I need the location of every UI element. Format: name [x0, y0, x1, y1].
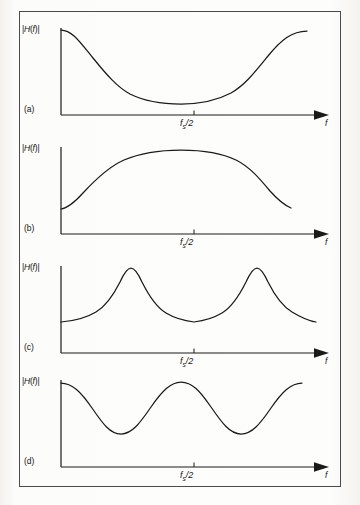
panel-c-nyquist-label: fs/2 — [180, 357, 193, 368]
panel-d: |H(f)| (d) fs/2 f — [20, 368, 342, 487]
panel-b-letter: (b) — [24, 224, 34, 233]
panel-b: |H(f)| (b) fs/2 f — [20, 135, 342, 254]
panel-d-y-axis-label: |H(f)| — [22, 377, 39, 386]
panel-b-x-axis-label: f — [325, 238, 327, 247]
panel-a-curve — [61, 30, 307, 104]
panel-b-curve — [61, 150, 291, 209]
panel-c: |H(f)| (c) fs/2 f — [20, 254, 342, 373]
panel-c-curve — [61, 268, 316, 322]
panel-c-y-axis-label: |H(f)| — [22, 263, 39, 272]
figure-container: |H(f)| (a) fs/2 f |H(f)| (b) fs/2 f — [0, 0, 360, 505]
panel-a: |H(f)| (a) fs/2 f — [20, 16, 342, 135]
panel-a-y-axis-label: |H(f)| — [22, 25, 39, 34]
panel-b-y-axis-label: |H(f)| — [22, 144, 39, 153]
panel-d-curve — [61, 382, 302, 434]
panel-c-x-axis-label: f — [325, 357, 327, 366]
panel-a-x-axis-label: f — [325, 119, 327, 128]
panel-a-letter: (a) — [24, 105, 34, 114]
panel-d-letter: (d) — [24, 457, 34, 466]
panel-c-letter: (c) — [24, 343, 34, 352]
figure-border: |H(f)| (a) fs/2 f |H(f)| (b) fs/2 f — [19, 11, 341, 487]
panel-d-nyquist-label: fs/2 — [180, 471, 193, 482]
panel-d-x-axis-label: f — [325, 471, 327, 480]
panel-a-nyquist-label: fs/2 — [180, 119, 193, 130]
panel-b-nyquist-label: fs/2 — [180, 238, 193, 249]
